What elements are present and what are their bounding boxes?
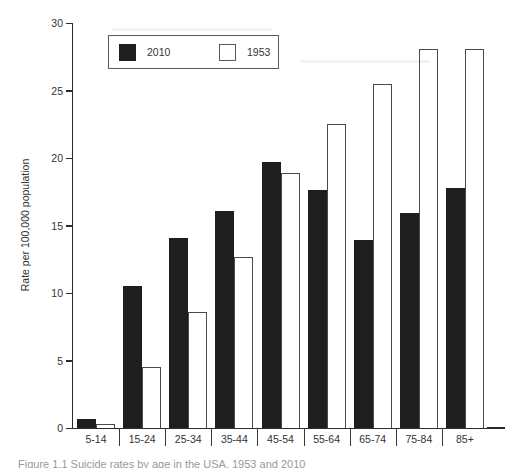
y-tick <box>66 360 72 362</box>
legend-swatch-filled <box>119 44 136 61</box>
x-tick-label: 25-34 <box>165 433 211 445</box>
bar-1953-35-44 <box>234 257 253 428</box>
y-tick-label: 10 <box>21 287 63 299</box>
legend-label-1953: 1953 <box>247 46 270 58</box>
x-tick-label: 35-44 <box>211 433 257 445</box>
y-tick <box>66 23 72 25</box>
bar-1953-25-34 <box>188 312 207 428</box>
bar-2010-15-24 <box>123 286 142 428</box>
bar-2010-25-34 <box>169 238 188 428</box>
scan-artifact <box>300 60 430 63</box>
x-axis-extension <box>487 427 505 429</box>
figure-caption-cutoff: Figure 1.1 Suicide rates by age in the U… <box>18 458 338 468</box>
legend-item-1953: 1953 <box>219 36 270 68</box>
x-tick-label: 15-24 <box>119 433 165 445</box>
bar-2010-55-64 <box>308 190 327 428</box>
legend: 2010 1953 <box>108 35 279 69</box>
bar-1953-5-14 <box>96 424 115 428</box>
legend-label-2010: 2010 <box>147 46 170 58</box>
x-tick-label: 85+ <box>442 433 488 445</box>
y-tick-label: 30 <box>21 17 63 29</box>
chart-figure: Rate per 100,000 population 051015202530… <box>0 0 505 468</box>
x-tick-label: 45-54 <box>258 433 304 445</box>
scan-artifact <box>112 28 272 31</box>
bar-1953-85+ <box>465 49 484 428</box>
bar-2010-85+ <box>446 188 465 428</box>
y-tick-label: 5 <box>21 355 63 367</box>
bar-2010-65-74 <box>354 240 373 428</box>
bar-1953-15-24 <box>142 367 161 428</box>
bar-2010-45-54 <box>262 162 281 428</box>
bar-1953-55-64 <box>327 124 346 428</box>
y-tick <box>66 158 72 160</box>
legend-swatch-outlined <box>219 44 236 61</box>
x-tick-label: 5-14 <box>73 433 119 445</box>
y-tick <box>66 90 72 92</box>
y-tick-label: 15 <box>21 220 63 232</box>
bar-1953-65-74 <box>373 84 392 428</box>
legend-item-2010: 2010 <box>119 36 170 68</box>
bar-2010-35-44 <box>215 211 234 428</box>
x-tick-label: 75-84 <box>396 433 442 445</box>
bar-1953-75-84 <box>419 49 438 428</box>
bar-2010-5-14 <box>77 419 96 428</box>
y-tick-label: 0 <box>21 422 63 434</box>
y-tick <box>66 428 72 430</box>
y-tick-label: 25 <box>21 85 63 97</box>
bar-2010-75-84 <box>400 213 419 428</box>
plot-area: 051015202530 5-1415-2425-3435-4445-5455-… <box>72 23 488 429</box>
y-tick-label: 20 <box>21 152 63 164</box>
x-tick-label: 55-64 <box>304 433 350 445</box>
x-tick-label: 65-74 <box>350 433 396 445</box>
bar-1953-45-54 <box>281 173 300 428</box>
y-tick <box>66 293 72 295</box>
y-tick <box>66 225 72 227</box>
